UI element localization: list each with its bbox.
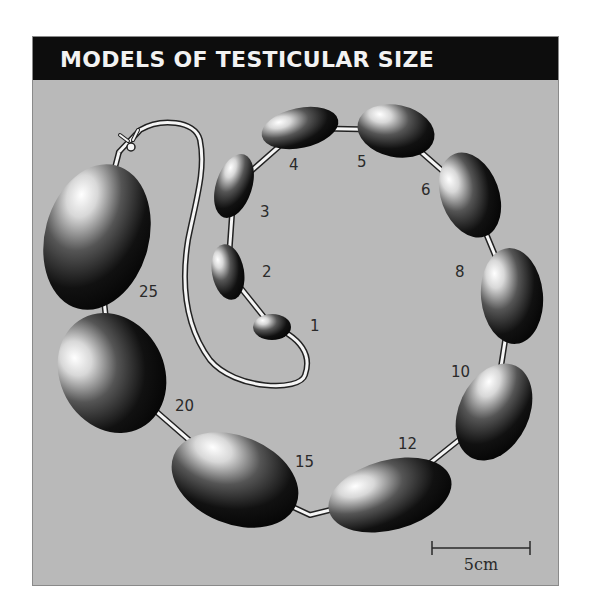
bead-3 xyxy=(207,149,262,223)
bead-label-2: 2 xyxy=(262,263,272,281)
bead-label-4: 4 xyxy=(289,156,299,174)
bead-20 xyxy=(37,294,187,452)
orchidometer-illustration: 1 2 3 4 5 6 8 10 12 15 20 25 5cm xyxy=(0,0,591,608)
scale-bar: 5cm xyxy=(432,541,530,574)
bead-6 xyxy=(428,144,513,247)
bead-label-25: 25 xyxy=(139,283,158,301)
bead-1 xyxy=(253,314,291,340)
bead-label-5: 5 xyxy=(357,153,367,171)
bead-label-3: 3 xyxy=(260,203,270,221)
bead-12 xyxy=(320,445,460,545)
bead-label-15: 15 xyxy=(295,453,314,471)
bead-label-1: 1 xyxy=(310,317,320,335)
bead-label-10: 10 xyxy=(451,363,470,381)
bead-label-12: 12 xyxy=(398,435,417,453)
bead-label-20: 20 xyxy=(175,397,194,415)
bead-label-8: 8 xyxy=(455,263,465,281)
bead-label-6: 6 xyxy=(421,181,431,199)
bead-4 xyxy=(258,100,343,155)
scale-bar-label: 5cm xyxy=(464,555,498,574)
bead-8 xyxy=(477,245,547,346)
